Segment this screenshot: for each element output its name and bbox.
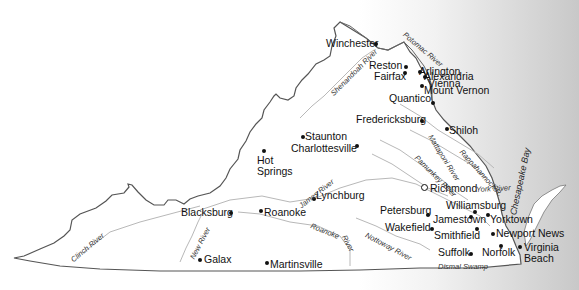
city-yorktown: Yorktown: [490, 214, 533, 225]
city-quantico: Quantico: [389, 93, 431, 104]
city-newport-news: Newport News: [496, 228, 564, 239]
city-norfolk: Norfolk: [482, 247, 515, 258]
martinsville-dot: [265, 261, 269, 265]
virginia-beach-dot: [518, 245, 522, 249]
city-shiloh: Shiloh: [449, 125, 478, 136]
capital-star-icon: [421, 184, 428, 191]
reston-dot: [404, 65, 408, 69]
city-roanoke: Roanoke: [264, 207, 306, 218]
city-jamestown: Jamestown: [433, 214, 486, 225]
city-petersburg: Petersburg: [380, 205, 431, 216]
virginia-map: Winchester Vienna Reston Arlington Fairf…: [0, 0, 579, 290]
city-winchester: Winchester: [326, 38, 379, 49]
city-martinsville: Martinsville: [270, 259, 323, 270]
city-hot-springs-line2: Springs: [257, 166, 293, 177]
river-york: York River: [476, 183, 511, 194]
galax-dot: [198, 258, 202, 262]
dismal-swamp-label: Dismal Swamp: [438, 262, 488, 271]
city-wakefield: Wakefield: [385, 222, 431, 233]
city-staunton: Staunton: [305, 131, 347, 142]
city-charlottesville: Charlottesville: [291, 143, 357, 154]
newport-news-dot: [491, 232, 495, 236]
quantico-dot: [431, 101, 435, 105]
city-smithfield: Smithfield: [434, 230, 480, 241]
city-galax: Galax: [204, 254, 231, 265]
city-alexandria: Alexandria: [424, 71, 474, 82]
city-virginia-beach-line2: Beach: [524, 253, 554, 264]
city-blacksburg: Blacksburg: [181, 207, 233, 218]
city-williamsburg: Williamsburg: [446, 200, 506, 211]
city-fredericksburg: Fredericksburg: [356, 114, 426, 125]
hot-springs-dot: [262, 149, 266, 153]
city-mount-vernon: Mount Vernon: [424, 85, 489, 96]
city-suffolk: Suffolk: [438, 247, 470, 258]
city-fairfax: Fairfax: [374, 71, 406, 82]
roanoke-dot: [259, 209, 263, 213]
